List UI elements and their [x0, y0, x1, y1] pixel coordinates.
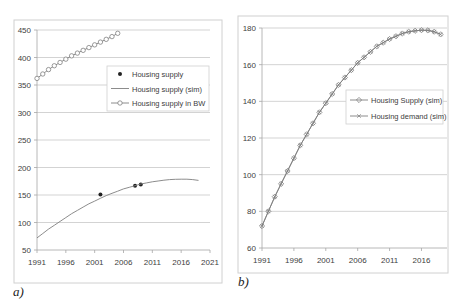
data-point-marker: [118, 101, 122, 105]
legend-label: Housing demand (sim): [371, 112, 447, 121]
y-tick-label: 100: [18, 219, 32, 228]
chart-a: 5010015020025030035040045019911996200120…: [0, 0, 230, 302]
data-point-marker: [52, 64, 56, 68]
x-tick-label: 2016: [413, 256, 431, 265]
legend: Housing Supply (sim)Housing demand (sim): [346, 90, 447, 124]
x-tick-label: 2021: [201, 258, 219, 267]
y-tick-label: 100: [243, 171, 257, 180]
legend: Housing supplyHousing supply (sim)Housin…: [107, 66, 209, 111]
chart-a-caption: a): [13, 284, 24, 300]
x-tick-label: 2006: [349, 256, 367, 265]
y-tick-label: 140: [243, 97, 257, 106]
legend-label: Housing supply in BW: [132, 99, 206, 108]
x-tick-label: 1996: [285, 256, 303, 265]
y-tick-label: 350: [18, 81, 32, 90]
x-tick-label: 1991: [28, 258, 46, 267]
chart-b-caption: b): [238, 274, 249, 290]
data-point-marker: [58, 60, 62, 64]
data-point-marker: [81, 48, 85, 52]
y-tick-label: 120: [243, 134, 257, 143]
data-point-marker: [98, 40, 102, 44]
data-point-marker: [69, 54, 73, 58]
y-tick-label: 160: [243, 61, 257, 70]
legend-label: Housing Supply (sim): [371, 96, 443, 105]
chart-frame: [238, 16, 448, 273]
chart-b: 6080100120140160180199119962001200620112…: [230, 0, 459, 302]
y-tick-label: 400: [18, 54, 32, 63]
y-tick-label: 450: [18, 26, 32, 35]
x-tick-label: 2001: [86, 258, 104, 267]
data-point-marker: [116, 31, 120, 35]
y-tick-label: 150: [18, 191, 32, 200]
data-point-marker: [87, 45, 91, 49]
data-point-marker: [110, 34, 114, 38]
chart-b-svg: 6080100120140160180199119962001200620112…: [230, 0, 459, 302]
data-point-marker: [104, 37, 108, 41]
y-tick-label: 250: [18, 136, 32, 145]
y-tick-label: 200: [18, 164, 32, 173]
data-point-marker: [46, 67, 50, 71]
data-point-marker: [41, 72, 45, 76]
legend-label: Housing supply (sim): [132, 85, 203, 94]
x-tick-label: 2001: [317, 256, 335, 265]
chart-a-svg: 5010015020025030035040045019911996200120…: [0, 0, 230, 302]
x-tick-label: 1996: [57, 258, 75, 267]
y-tick-label: 50: [22, 246, 31, 255]
x-tick-label: 2011: [144, 258, 162, 267]
x-tick-label: 2016: [172, 258, 190, 267]
data-point-marker: [92, 43, 96, 47]
data-point-marker: [75, 51, 79, 55]
data-point-marker: [64, 57, 68, 61]
chart-frame: [14, 20, 222, 283]
x-tick-label: 2011: [381, 256, 399, 265]
x-tick-label: 2006: [115, 258, 133, 267]
data-point-marker: [35, 76, 39, 80]
legend-label: Housing supply: [132, 70, 184, 79]
data-point-marker: [98, 192, 102, 196]
y-tick-label: 300: [18, 109, 32, 118]
x-tick-label: 1991: [253, 256, 271, 265]
y-tick-label: 180: [243, 24, 257, 33]
y-tick-label: 60: [247, 244, 256, 253]
data-point-marker: [118, 72, 122, 76]
y-tick-label: 80: [247, 207, 256, 216]
